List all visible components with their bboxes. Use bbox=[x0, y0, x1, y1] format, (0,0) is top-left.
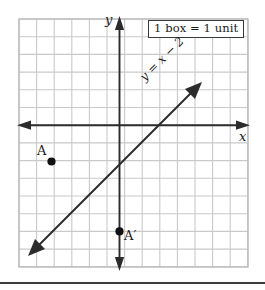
point-a-prime-marker bbox=[115, 227, 123, 235]
coordinate-grid-figure: 1 box = 1 unit y x A A′ y = x − 2 bbox=[0, 0, 265, 290]
point-a-label: A bbox=[37, 143, 46, 158]
bottom-divider bbox=[0, 282, 265, 284]
x-axis-label: x bbox=[239, 129, 246, 144]
y-axis-label: y bbox=[105, 12, 112, 27]
point-a-marker bbox=[47, 157, 55, 165]
point-a-prime-label: A′ bbox=[124, 228, 136, 243]
legend-box: 1 box = 1 unit bbox=[148, 20, 244, 38]
